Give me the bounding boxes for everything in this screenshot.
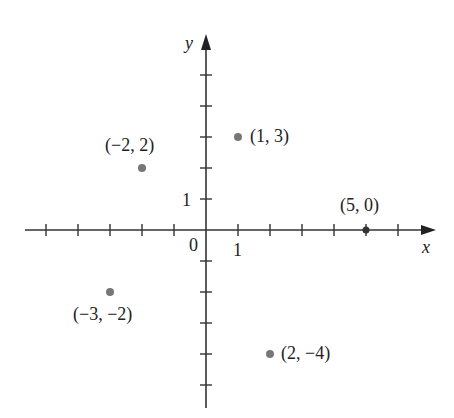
x-axis-label: x	[422, 238, 430, 256]
data-point	[138, 164, 146, 172]
point-label-5-0: (5, 0)	[340, 196, 379, 214]
y-axis-arrow-icon	[201, 34, 211, 50]
data-point	[234, 133, 242, 141]
point-label-2-neg4: (2, −4)	[281, 344, 330, 362]
x-tick-label-1: 1	[233, 241, 242, 259]
coordinate-plane	[0, 0, 454, 418]
y-axis-label: y	[185, 34, 193, 52]
point-label-1-3: (1, 3)	[250, 127, 289, 145]
point-label-neg2-2: (−2, 2)	[105, 136, 154, 154]
origin-label: 0	[189, 236, 198, 254]
y-tick-label-1: 1	[182, 191, 191, 209]
data-point	[363, 227, 370, 234]
point-label-neg3-neg2: (−3, −2)	[73, 305, 132, 323]
x-axis-arrow-icon	[421, 225, 436, 235]
data-point	[266, 350, 274, 358]
data-point	[106, 288, 114, 296]
